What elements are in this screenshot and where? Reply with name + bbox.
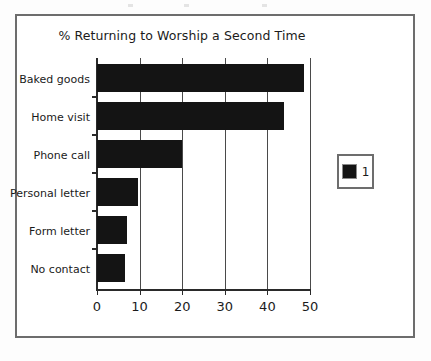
x-tick-0 — [97, 290, 98, 295]
x-tick-label-0: 0 — [93, 299, 101, 314]
category-label-baked-goods: Baked goods — [19, 74, 90, 85]
category-label-phone-call: Phone call — [34, 150, 90, 161]
plot-area: 0 10 20 30 40 50 Baked goods Home visit … — [97, 60, 310, 289]
category-label-personal-letter: Personal letter — [10, 188, 90, 199]
x-tick-label-30: 30 — [217, 299, 234, 314]
gridline-20 — [182, 58, 183, 289]
chart-title: % Returning to Worship a Second Time — [17, 28, 347, 43]
x-tick-label-40: 40 — [259, 299, 276, 314]
y-tick — [92, 210, 98, 212]
gridline-30 — [225, 58, 226, 289]
legend[interactable]: 1 — [337, 154, 374, 189]
bar-form-letter[interactable]: Form letter — [97, 216, 127, 244]
bar-baked-goods[interactable]: Baked goods — [97, 64, 304, 92]
category-label-form-letter: Form letter — [29, 226, 90, 237]
x-tick-50 — [310, 290, 311, 295]
gridline-40 — [267, 58, 268, 289]
legend-swatch-icon — [342, 164, 357, 179]
gridline-10 — [140, 58, 141, 289]
x-tick-label-50: 50 — [302, 299, 319, 314]
y-tick — [92, 172, 98, 174]
x-tick-40 — [267, 290, 268, 295]
legend-label-1: 1 — [362, 166, 370, 178]
y-tick — [92, 248, 98, 250]
scan-artifact — [128, 4, 133, 7]
gridline-50 — [310, 58, 311, 289]
scan-artifact — [184, 4, 189, 7]
category-label-no-contact: No contact — [30, 264, 90, 275]
bar-no-contact[interactable]: No contact — [97, 254, 125, 282]
x-tick-20 — [182, 290, 183, 295]
y-tick — [92, 96, 98, 98]
x-tick-10 — [140, 290, 141, 295]
x-tick-label-20: 20 — [174, 299, 191, 314]
bar-home-visit[interactable]: Home visit — [97, 102, 284, 130]
bar-personal-letter[interactable]: Personal letter — [97, 178, 138, 206]
figure-canvas: % Returning to Worship a Second Time 0 1… — [0, 0, 431, 361]
y-tick — [92, 134, 98, 136]
x-tick-30 — [225, 290, 226, 295]
bar-phone-call[interactable]: Phone call — [97, 140, 182, 168]
x-tick-label-10: 10 — [131, 299, 148, 314]
x-axis-line — [96, 289, 311, 291]
category-label-home-visit: Home visit — [31, 112, 90, 123]
scan-artifact — [262, 4, 267, 7]
